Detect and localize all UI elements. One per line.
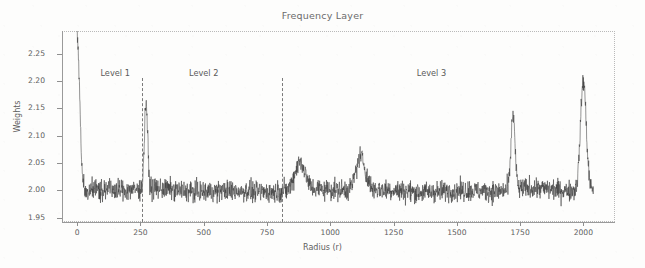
x-tick-mark: [140, 222, 141, 226]
x-tick-label: 250: [133, 228, 148, 237]
x-tick-label: 1000: [321, 228, 340, 237]
annotation-level-2: Level 2: [189, 68, 218, 78]
series-weights: [77, 31, 593, 206]
y-tick-label: 2.00: [28, 185, 45, 194]
y-tick-mark: [57, 81, 62, 82]
x-tick-label: 500: [196, 228, 211, 237]
y-axis-title: Weights: [13, 82, 22, 152]
y-tick-label: 1.95: [28, 213, 45, 222]
x-tick-mark: [394, 222, 395, 226]
annotation-level-3: Level 3: [417, 68, 446, 78]
x-tick-mark: [520, 222, 521, 226]
y-tick-mark: [57, 163, 62, 164]
y-tick-label: 2.15: [28, 103, 45, 112]
divider-level-2-3: [282, 78, 283, 222]
y-axis-ticks: 1.952.002.052.102.152.202.25: [0, 0, 57, 268]
x-tick-label: 1500: [447, 228, 466, 237]
y-tick-label: 2.05: [28, 158, 45, 167]
y-tick-label: 2.10: [28, 131, 45, 140]
y-tick-label: 2.25: [28, 49, 45, 58]
x-tick-mark: [204, 222, 205, 226]
x-tick-mark: [583, 222, 584, 226]
y-tick-label: 2.20: [28, 76, 45, 85]
x-axis-line: [62, 222, 615, 223]
y-axis-line: [62, 31, 63, 222]
x-tick-label: 1750: [510, 228, 529, 237]
annotation-level-1: Level 1: [100, 68, 129, 78]
weights-curve: [77, 31, 593, 206]
plot-canvas: [62, 31, 615, 222]
chart-page: Frequency Layer 1.952.002.052.102.152.20…: [0, 0, 645, 268]
y-tick-mark: [57, 54, 62, 55]
x-tick-label: 1250: [384, 228, 403, 237]
x-tick-label: 2000: [574, 228, 593, 237]
x-axis-title: Radius (r): [0, 243, 645, 252]
chart-title: Frequency Layer: [0, 10, 645, 21]
x-tick-mark: [77, 222, 78, 226]
x-tick-mark: [267, 222, 268, 226]
x-tick-label: 0: [75, 228, 80, 237]
x-tick-mark: [330, 222, 331, 226]
y-tick-mark: [57, 108, 62, 109]
x-tick-mark: [457, 222, 458, 226]
divider-level-1-2: [142, 78, 143, 222]
x-tick-label: 750: [260, 228, 275, 237]
y-tick-mark: [57, 190, 62, 191]
y-tick-mark: [57, 136, 62, 137]
y-tick-mark: [57, 218, 62, 219]
